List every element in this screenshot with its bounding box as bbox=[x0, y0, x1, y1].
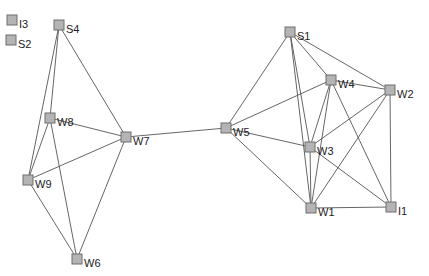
edge-s4-w9 bbox=[28, 25, 59, 180]
node-s2[interactable]: S2 bbox=[6, 35, 31, 50]
node-label: W5 bbox=[233, 126, 250, 138]
node-box-icon[interactable] bbox=[6, 35, 16, 45]
node-label: W8 bbox=[57, 116, 74, 128]
node-i3[interactable]: I3 bbox=[7, 15, 28, 30]
node-box-icon[interactable] bbox=[326, 75, 336, 85]
node-label: W6 bbox=[84, 257, 101, 269]
node-box-icon[interactable] bbox=[285, 27, 295, 37]
node-w6[interactable]: W6 bbox=[72, 254, 101, 269]
edge-w2-w3 bbox=[310, 90, 390, 147]
node-label: S1 bbox=[297, 30, 310, 42]
node-w3[interactable]: W3 bbox=[305, 142, 334, 157]
node-w4[interactable]: W4 bbox=[326, 75, 355, 90]
edge-s4-w8 bbox=[50, 25, 59, 118]
node-box-icon[interactable] bbox=[23, 175, 33, 185]
node-layer: I3S2S4W8W7W9W6W5S1W4W2W3W1I1 bbox=[6, 15, 414, 269]
edge-s1-w3 bbox=[290, 32, 310, 147]
node-label: W2 bbox=[397, 88, 414, 100]
node-box-icon[interactable] bbox=[306, 203, 316, 213]
edge-w8-w9 bbox=[28, 118, 50, 180]
edge-w4-w3 bbox=[310, 80, 331, 147]
node-w1[interactable]: W1 bbox=[306, 203, 335, 218]
node-label: W7 bbox=[133, 135, 150, 147]
node-box-icon[interactable] bbox=[121, 132, 131, 142]
edge-w4-i1 bbox=[331, 80, 391, 207]
node-label: I3 bbox=[19, 18, 28, 30]
node-w5[interactable]: W5 bbox=[221, 123, 250, 138]
node-w2[interactable]: W2 bbox=[385, 85, 414, 100]
node-label: W3 bbox=[317, 145, 334, 157]
node-box-icon[interactable] bbox=[385, 85, 395, 95]
node-box-icon[interactable] bbox=[7, 15, 17, 25]
node-box-icon[interactable] bbox=[386, 202, 396, 212]
edge-layer bbox=[28, 25, 391, 259]
node-label: S2 bbox=[18, 38, 31, 50]
graph-canvas: I3S2S4W8W7W9W6W5S1W4W2W3W1I1 bbox=[0, 0, 429, 276]
network-diagram: I3S2S4W8W7W9W6W5S1W4W2W3W1I1 bbox=[0, 0, 429, 276]
node-box-icon[interactable] bbox=[72, 254, 82, 264]
node-box-icon[interactable] bbox=[54, 20, 64, 30]
node-box-icon[interactable] bbox=[221, 123, 231, 133]
edge-w2-i1 bbox=[390, 90, 391, 207]
node-label: W4 bbox=[338, 78, 355, 90]
node-w9[interactable]: W9 bbox=[23, 175, 52, 190]
node-box-icon[interactable] bbox=[45, 113, 55, 123]
node-w7[interactable]: W7 bbox=[121, 132, 150, 147]
node-label: W1 bbox=[318, 206, 335, 218]
node-label: S4 bbox=[66, 23, 79, 35]
node-s1[interactable]: S1 bbox=[285, 27, 310, 42]
node-box-icon[interactable] bbox=[305, 142, 315, 152]
node-i1[interactable]: I1 bbox=[386, 202, 407, 217]
node-w8[interactable]: W8 bbox=[45, 113, 74, 128]
node-label: I1 bbox=[398, 205, 407, 217]
node-label: W9 bbox=[35, 178, 52, 190]
edge-s1-w1 bbox=[290, 32, 311, 208]
edge-w5-w1 bbox=[226, 128, 311, 208]
